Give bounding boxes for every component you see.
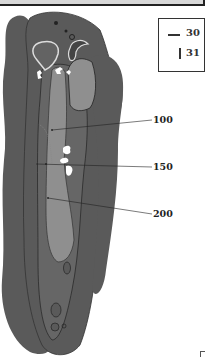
vertical-line-icon [179, 48, 181, 59]
legend-value: 31 [186, 47, 200, 58]
secondary-fairway [68, 59, 96, 111]
pond [51, 303, 61, 317]
corner-mark [200, 351, 205, 357]
tree-dot [65, 30, 68, 33]
horizontal-line-icon [168, 34, 180, 36]
yardage-label-150: 150 [153, 161, 173, 172]
legend-item: 31 [159, 47, 204, 63]
legend-item: 30 [159, 27, 204, 43]
tree-dot [54, 21, 58, 25]
yardage-label-100: 100 [153, 114, 173, 125]
legend-value: 30 [186, 27, 200, 38]
yardage-label-200: 200 [153, 208, 173, 219]
bunker [63, 146, 70, 154]
legend-box: 30 31 [158, 18, 205, 72]
pond [64, 262, 71, 274]
pond [51, 323, 59, 331]
